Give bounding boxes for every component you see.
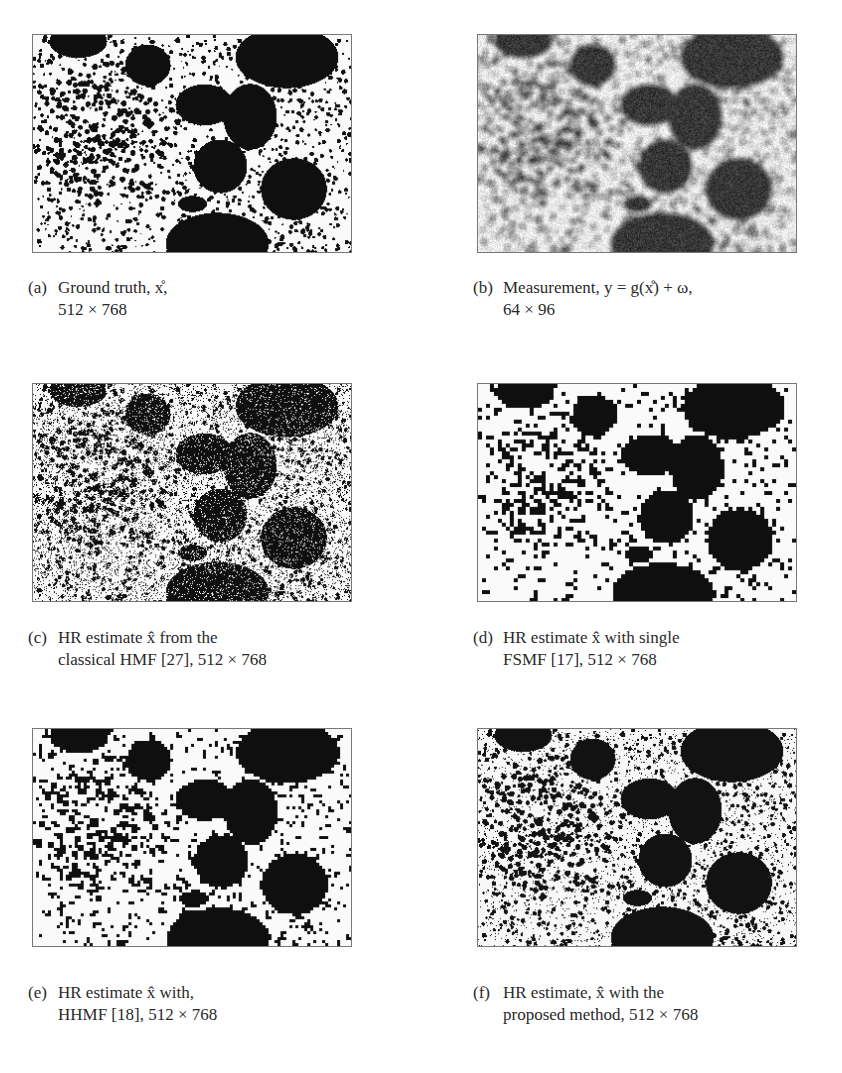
caption-label: (e) [28, 982, 58, 1004]
caption-text: Measurement, y = g(x̊) + ω, [503, 278, 692, 297]
caption-a: (a)Ground truth, x̊, 512 × 768 [28, 277, 168, 321]
caption-e: (e)HR estimate x̂ with, HHMF [18], 512 ×… [28, 982, 217, 1026]
caption-f: (f)HR estimate, x̂ with the proposed met… [473, 982, 698, 1026]
image-canvas [33, 729, 351, 946]
caption-label: (d) [473, 627, 503, 649]
image-canvas [33, 384, 351, 601]
image-measurement [477, 34, 797, 253]
image-canvas [478, 729, 796, 946]
caption-b: (b)Measurement, y = g(x̊) + ω, 64 × 96 [473, 277, 692, 321]
caption-resolution: proposed method, 512 × 768 [473, 1004, 698, 1026]
caption-label: (f) [473, 982, 503, 1004]
caption-text: HR estimate, x̂ with the [503, 983, 664, 1002]
image-hhmf-estimate [32, 728, 352, 947]
caption-text: Ground truth, x̊, [58, 278, 168, 297]
caption-label: (c) [28, 627, 58, 649]
image-ground-truth [32, 34, 352, 253]
caption-resolution: 512 × 768 [28, 299, 168, 321]
image-proposed-estimate [477, 728, 797, 947]
image-fsmf-estimate [477, 383, 797, 602]
caption-d: (d)HR estimate x̂ with single FSMF [17],… [473, 627, 680, 671]
caption-resolution: classical HMF [27], 512 × 768 [28, 649, 267, 671]
image-canvas [33, 35, 351, 252]
image-hmf-estimate [32, 383, 352, 602]
caption-resolution: 64 × 96 [473, 299, 692, 321]
caption-text: HR estimate x̂ with single [503, 628, 680, 647]
image-canvas [478, 35, 796, 252]
caption-resolution: FSMF [17], 512 × 768 [473, 649, 680, 671]
caption-c: (c)HR estimate x̂ from the classical HMF… [28, 627, 267, 671]
caption-label: (a) [28, 277, 58, 299]
image-canvas [478, 384, 796, 601]
caption-text: HR estimate x̂ with, [58, 983, 194, 1002]
caption-resolution: HHMF [18], 512 × 768 [28, 1004, 217, 1026]
caption-text: HR estimate x̂ from the [58, 628, 218, 647]
caption-label: (b) [473, 277, 503, 299]
